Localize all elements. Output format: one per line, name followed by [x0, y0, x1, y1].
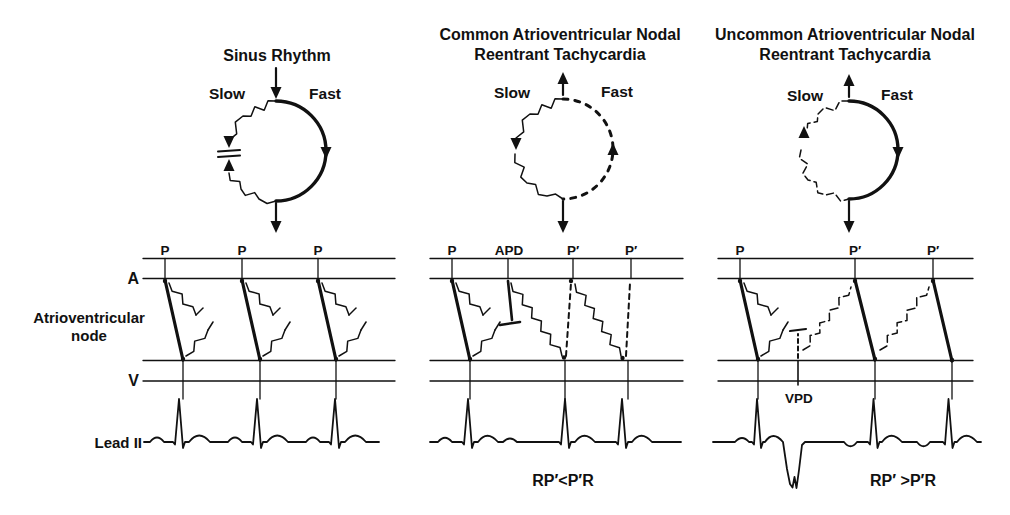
av-node-label: node [71, 327, 107, 344]
p-prime-label: P′ [625, 243, 637, 258]
p-wave-label: P [735, 243, 744, 258]
uncommon-avnrt-ladder-diagram [718, 259, 973, 400]
apd-label: APD [495, 243, 524, 258]
panel-title: Common Atrioventricular Nodal [439, 26, 680, 43]
slow-pathway-label: Slow [494, 84, 531, 101]
panel-common-avnrt: Common Atrioventricular Nodal Reentrant … [430, 26, 683, 489]
sinus-ladder-diagram [143, 259, 395, 400]
p-prime-label: P′ [849, 243, 861, 258]
panel-title: Uncommon Atrioventricular Nodal [715, 26, 975, 43]
avnrt-mechanism-figure: Sinus Rhythm Slow Fast P P P A V Atriove… [0, 0, 1010, 515]
p-wave-label: P [313, 243, 322, 258]
panel-title: Reentrant Tachycardia [474, 46, 645, 63]
slow-pathway-label: Slow [787, 87, 824, 104]
fast-pathway-label: Fast [309, 85, 341, 102]
p-prime-label: P′ [567, 243, 579, 258]
atrium-axis-label: A [127, 270, 139, 287]
fast-pathway-label: Fast [881, 86, 913, 103]
sinus-ecg-trace [144, 399, 379, 448]
rp-interval-caption: RP′<P′R [532, 472, 594, 489]
common-avnrt-ecg-trace [430, 399, 681, 448]
panel-sinus: Sinus Rhythm Slow Fast P P P A V Atriove… [33, 47, 395, 451]
common-avnrt-ladder-diagram [430, 259, 683, 400]
vpd-label: VPD [785, 391, 813, 406]
panel-title: Sinus Rhythm [223, 47, 331, 64]
p-wave-label: P [237, 243, 246, 258]
panel-uncommon-avnrt: Uncommon Atrioventricular Nodal Reentran… [713, 26, 981, 489]
fast-pathway-label: Fast [601, 83, 633, 100]
p-wave-label: P [160, 243, 169, 258]
p-wave-label: P [447, 243, 456, 258]
diagram-canvas: Sinus Rhythm Slow Fast P P P A V Atriove… [0, 0, 1010, 515]
rp-interval-caption: RP′ >P′R [870, 472, 936, 489]
slow-pathway-label: Slow [209, 85, 246, 102]
ecg-lead-label: Lead II [94, 434, 142, 451]
panel-title: Reentrant Tachycardia [759, 46, 930, 63]
p-prime-label: P′ [927, 243, 939, 258]
ventricle-axis-label: V [128, 372, 139, 389]
uncommon-avnrt-ecg-trace [713, 399, 981, 488]
av-node-label: Atrioventricular [33, 309, 145, 326]
